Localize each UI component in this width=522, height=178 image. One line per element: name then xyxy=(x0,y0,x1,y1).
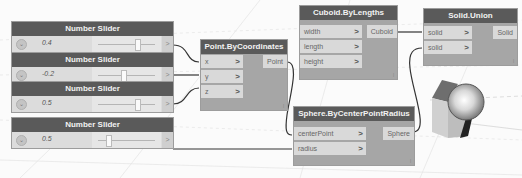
slider-title: Number Slider xyxy=(12,22,173,36)
node-sphere-by-center-point-radius[interactable]: Sphere.ByCenterPointRadius centerPoint >… xyxy=(294,107,414,165)
port-label: solid xyxy=(428,44,442,51)
port-label: x xyxy=(205,58,209,65)
chevron-right-icon: > xyxy=(358,127,363,140)
slider-body: ⌄ -0.2 > xyxy=(12,67,173,83)
node-title: Sphere.ByCenterPointRadius xyxy=(294,107,414,121)
slider-thumb[interactable] xyxy=(106,135,112,147)
geometry-preview[interactable] xyxy=(430,70,510,160)
slider-track xyxy=(98,44,155,45)
node-footer-marker: l xyxy=(393,72,394,78)
slider-body: ⌄ 0.4 > xyxy=(12,36,173,52)
port-label: y xyxy=(205,73,209,80)
expand-chevron-icon[interactable]: ⌄ xyxy=(16,39,27,50)
output-port-cuboid[interactable]: Cuboid xyxy=(367,25,397,38)
input-port-solid-2[interactable]: solid > xyxy=(424,41,472,54)
output-port[interactable]: > xyxy=(162,36,173,52)
input-port-height[interactable]: height > xyxy=(300,55,362,68)
port-label: z xyxy=(205,88,209,95)
output-port-sphere[interactable]: Sphere xyxy=(383,127,414,140)
input-port-width[interactable]: width > xyxy=(300,25,362,38)
expand-chevron-icon[interactable]: ⌄ xyxy=(16,99,27,110)
input-port-y[interactable]: y > xyxy=(201,70,243,83)
node-point-by-coordinates[interactable]: Point.ByCoordinates x > Point y > z > l xyxy=(201,40,287,110)
chevron-right-icon: > xyxy=(354,40,359,53)
chevron-right-icon: > xyxy=(235,85,240,98)
slider-track xyxy=(98,104,155,105)
input-port-radius[interactable]: radius > xyxy=(294,142,366,155)
slider-track-area[interactable] xyxy=(92,36,161,52)
node-footer-marker: l xyxy=(513,58,514,64)
slider-title: Number Slider xyxy=(12,53,173,67)
output-port[interactable]: > xyxy=(162,132,173,148)
node-title: Solid.Union xyxy=(424,9,517,23)
slider-track-area[interactable] xyxy=(92,96,161,112)
port-label: radius xyxy=(298,145,317,152)
expand-chevron-icon[interactable]: ⌄ xyxy=(16,135,27,146)
node-footer-marker: l xyxy=(283,103,284,109)
slider-title: Number Slider xyxy=(12,82,173,96)
slider-thumb[interactable] xyxy=(135,99,141,111)
graph-canvas[interactable]: Number Slider ⌄ 0.4 > Number Slider ⌄ -0… xyxy=(0,0,522,178)
slider-track-area[interactable] xyxy=(92,67,161,83)
slider-track-area[interactable] xyxy=(92,132,161,148)
input-port-x[interactable]: x > xyxy=(201,55,243,68)
sphere-icon xyxy=(448,84,484,120)
port-label: height xyxy=(304,58,323,65)
chevron-right-icon: > xyxy=(464,26,469,39)
slider-value: -0.2 xyxy=(42,70,54,77)
output-port[interactable]: > xyxy=(162,67,173,83)
slider-value: 0.5 xyxy=(42,135,52,142)
chevron-right-icon: > xyxy=(464,41,469,54)
input-port-solid-1[interactable]: solid > xyxy=(424,26,472,39)
input-port-length[interactable]: length > xyxy=(300,40,362,53)
chevron-right-icon: > xyxy=(354,55,359,68)
chevron-right-icon: > xyxy=(235,55,240,68)
port-label: centerPoint xyxy=(298,130,333,137)
slider-title: Number Slider xyxy=(12,118,173,132)
chevron-right-icon: > xyxy=(354,25,359,38)
input-port-z[interactable]: z > xyxy=(201,85,243,98)
slider-thumb[interactable] xyxy=(135,39,141,51)
output-port-solid[interactable]: Solid xyxy=(493,26,517,39)
slider-thumb[interactable] xyxy=(121,70,127,82)
input-port-centerpoint[interactable]: centerPoint > xyxy=(294,127,366,140)
node-title: Point.ByCoordinates xyxy=(201,40,287,54)
slider-body: ⌄ 0.5 > xyxy=(12,96,173,112)
output-port-point[interactable]: Point xyxy=(263,55,287,68)
node-cuboid-by-lengths[interactable]: Cuboid.ByLengths width > Cuboid length >… xyxy=(300,6,397,79)
node-footer-marker: l xyxy=(410,158,411,164)
node-title: Cuboid.ByLengths xyxy=(300,6,397,20)
number-slider-1[interactable]: Number Slider ⌄ 0.4 > xyxy=(12,22,173,52)
slider-value: 0.4 xyxy=(42,39,52,46)
port-label: length xyxy=(304,43,323,50)
number-slider-4[interactable]: Number Slider ⌄ 0.5 > xyxy=(12,118,173,148)
node-solid-union[interactable]: Solid.Union solid > Solid solid > l xyxy=(424,9,517,65)
slider-body: ⌄ 0.5 > xyxy=(12,132,173,148)
chevron-right-icon: > xyxy=(235,70,240,83)
slider-value: 0.5 xyxy=(42,99,52,106)
chevron-right-icon: > xyxy=(358,142,363,155)
number-slider-3[interactable]: Number Slider ⌄ 0.5 > xyxy=(12,82,173,112)
expand-chevron-icon[interactable]: ⌄ xyxy=(16,70,27,81)
port-label: solid xyxy=(428,29,442,36)
port-label: width xyxy=(304,28,320,35)
number-slider-2[interactable]: Number Slider ⌄ -0.2 > xyxy=(12,53,173,83)
output-port[interactable]: > xyxy=(162,96,173,112)
